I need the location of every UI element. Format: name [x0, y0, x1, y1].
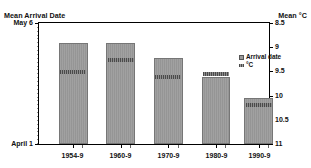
temperature-band-1980-9: [203, 72, 229, 76]
right-axis-tick-label: 10.5: [275, 116, 289, 123]
left-axis-minor-tick: [37, 35, 39, 36]
left-axis-minor-tick: [37, 108, 39, 109]
chart-legend: Arrival date °C: [239, 53, 281, 69]
x-axis-tick: [73, 144, 74, 148]
left-axis-tick-label: April 1: [11, 140, 33, 147]
right-axis-tick: [269, 71, 273, 72]
left-axis-minor-tick: [37, 81, 39, 82]
left-axis-minor-tick: [37, 100, 39, 101]
x-axis-minor-tick: [130, 145, 131, 148]
temperature-band-1960-9: [108, 58, 134, 62]
right-axis-tick-label: 11: [275, 140, 282, 147]
left-axis-minor-tick: [37, 93, 39, 94]
left-axis-minor-tick: [37, 120, 39, 121]
legend-item-temperature: °C: [239, 61, 281, 69]
band-swatch-icon: [239, 64, 244, 67]
left-axis-minor-tick: [37, 135, 39, 136]
left-axis-minor-tick: [37, 38, 39, 39]
left-axis-minor-tick: [37, 31, 39, 32]
x-axis-minor-tick: [82, 145, 83, 148]
chart-container: Mean Arrival Date Mean °C May 6April 1 8…: [0, 0, 311, 168]
right-axis-tick: [269, 47, 273, 48]
right-axis-tick-label: 8.5: [275, 19, 285, 26]
bar-1954-9: [59, 43, 88, 144]
right-axis-tick: [269, 144, 273, 145]
x-axis-tick: [216, 144, 217, 148]
left-axis-minor-tick: [37, 97, 39, 98]
legend-label-arrival-date: Arrival date: [246, 53, 281, 61]
left-axis-minor-tick: [37, 77, 39, 78]
left-axis-minor-tick: [37, 69, 39, 70]
left-axis-minor-tick: [37, 23, 39, 24]
left-axis-minor-tick: [37, 66, 39, 67]
x-axis-label-1970-9: 1970-9: [149, 152, 189, 159]
legend-label-temperature: °C: [246, 61, 253, 69]
x-axis-minor-tick: [268, 145, 269, 148]
right-axis-tick: [269, 23, 273, 24]
left-axis-tick: [35, 144, 39, 145]
left-axis-minor-tick: [37, 104, 39, 105]
left-axis-minor-tick: [37, 46, 39, 47]
left-axis-minor-tick: [37, 143, 39, 144]
left-axis-minor-tick: [37, 85, 39, 86]
x-axis-tick: [259, 144, 260, 148]
left-axis-tick-label: May 6: [14, 19, 33, 26]
left-axis-minor-tick: [37, 50, 39, 51]
left-axis-minor-tick: [37, 89, 39, 90]
right-axis-tick: [269, 96, 273, 97]
legend-item-arrival-date: Arrival date: [239, 53, 281, 61]
bar-1970-9: [154, 58, 183, 144]
left-axis-minor-tick: [37, 54, 39, 55]
x-axis-minor-tick: [178, 145, 179, 148]
temperature-band-1954-9: [60, 70, 86, 74]
plot-area: May 6April 1 8.599.51010.511 Arrival dat…: [38, 22, 270, 145]
left-axis-minor-tick: [37, 27, 39, 28]
right-axis-tick-label: 10: [275, 92, 283, 99]
left-axis-minor-tick: [37, 128, 39, 129]
left-axis-minor-tick: [37, 112, 39, 113]
left-axis-minor-tick: [37, 131, 39, 132]
right-axis-tick-label: 9: [275, 43, 279, 50]
x-axis-label-1954-9: 1954-9: [52, 152, 92, 159]
temperature-band-1990-9: [246, 103, 272, 107]
left-axis-minor-tick: [37, 139, 39, 140]
left-axis-minor-tick: [37, 116, 39, 117]
x-axis-minor-tick: [225, 145, 226, 148]
x-axis-tick: [121, 144, 122, 148]
left-axis-minor-tick: [37, 42, 39, 43]
left-axis-minor-tick: [37, 62, 39, 63]
x-axis-label-1990-9: 1990-9: [239, 152, 279, 159]
bar-1980-9: [202, 77, 231, 144]
left-axis-minor-tick: [37, 58, 39, 59]
x-axis-label-1960-9: 1960-9: [100, 152, 140, 159]
bar-swatch-icon: [239, 55, 244, 60]
x-axis-tick: [168, 144, 169, 148]
x-axis-label-1980-9: 1980-9: [197, 152, 237, 159]
left-axis-minor-tick: [37, 73, 39, 74]
left-axis-minor-tick: [37, 124, 39, 125]
temperature-band-1970-9: [155, 75, 181, 79]
